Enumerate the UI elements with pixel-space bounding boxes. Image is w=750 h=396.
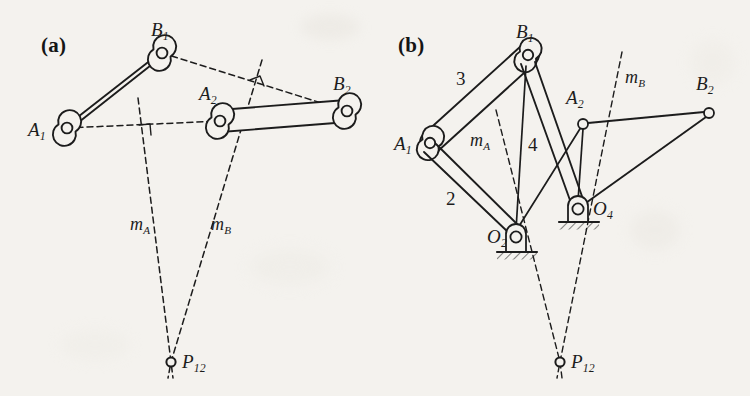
label-ma-a: mA [130,215,150,233]
joint-b2-b [704,108,714,118]
link-b2-o4 [583,117,706,205]
label-a1-b: A1 [394,134,412,153]
joint-a2 [215,116,226,127]
label-ma-b: mA [470,131,490,149]
link-2 [424,144,521,233]
label-b1: B1 [151,20,169,39]
bisector-ma [138,98,173,378]
link-number-3: 3 [456,68,466,90]
label-a1: A1 [28,120,46,139]
mechanism-drawing [0,0,750,396]
label-b2: B2 [333,74,351,93]
joint-b1 [157,48,168,59]
label-p12-b: P12 [571,352,594,371]
label-mb-a: mB [211,215,231,233]
label-o2: O2 [487,227,507,246]
link-a2-b2-b [588,112,704,123]
joint-a1 [62,123,73,134]
label-mb-b: mB [625,68,645,86]
link-4 [521,62,584,203]
link-a2-b2 [206,93,361,139]
mechanism-figure: (a) (b) A1 B1 A2 B2 P12 mA mB A1 B1 A2 B… [0,0,750,396]
label-p12-a: P12 [182,352,205,371]
panel-label-b: (b) [398,33,425,58]
pole-p12-b [555,357,564,366]
joint-a2-b [578,119,588,129]
joint-b1-b [523,50,533,60]
joint-a1-b [425,138,435,148]
link-number-4: 4 [528,134,538,156]
joint-b2 [342,106,353,117]
panel-label-a: (a) [41,33,66,58]
construction-b1-o2 [516,66,526,230]
label-a2-b: A2 [566,88,584,107]
label-b1-b: B1 [516,22,534,41]
label-o4: O4 [593,199,613,218]
pole-p12-a [166,357,175,366]
label-a2: A2 [199,84,217,103]
link-number-2: 2 [446,188,456,210]
right-angle-mark-a [139,124,151,135]
label-b2-b: B2 [696,74,714,93]
